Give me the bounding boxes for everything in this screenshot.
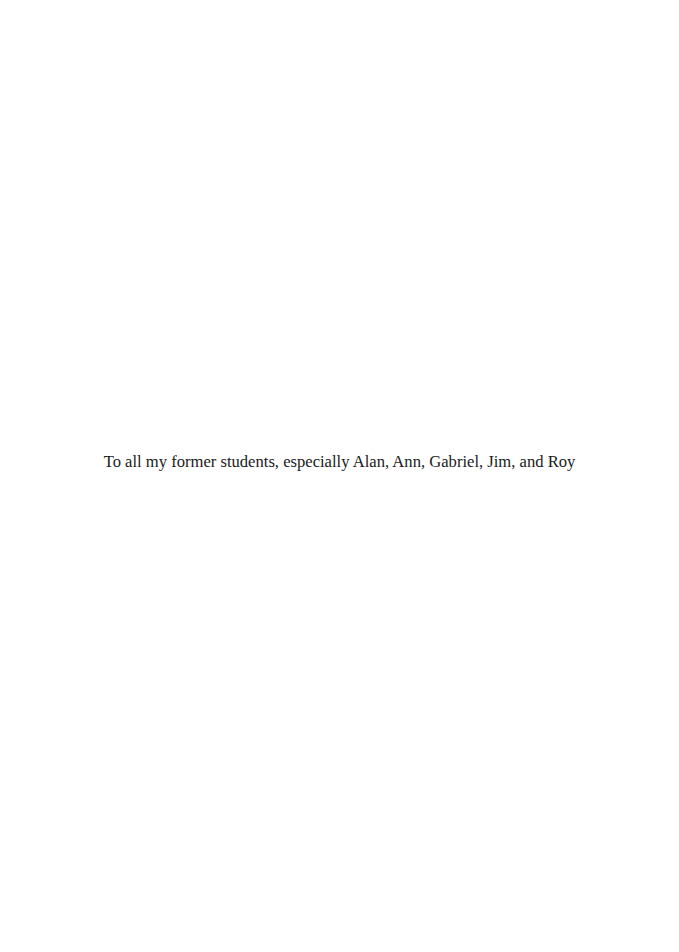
dedication-text: To all my former students, especially Al… [0,450,679,474]
dedication-page: To all my former students, especially Al… [0,0,679,952]
